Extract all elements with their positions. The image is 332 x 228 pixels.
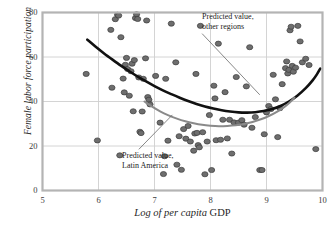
- y-tick-label: 60: [16, 52, 38, 62]
- data-point: [173, 60, 179, 65]
- data-point: [168, 21, 174, 26]
- data-point: [200, 130, 206, 135]
- data-point: [261, 132, 267, 137]
- data-point: [297, 39, 303, 44]
- data-point: [174, 162, 180, 167]
- data-point: [295, 23, 301, 28]
- data-point: [220, 117, 226, 122]
- data-point: [212, 96, 218, 101]
- data-point: [247, 45, 253, 50]
- data-point: [178, 167, 184, 172]
- data-point: [211, 83, 217, 88]
- data-point: [138, 131, 144, 136]
- data-point: [116, 13, 122, 18]
- data-point: [303, 56, 309, 61]
- data-point: [157, 120, 163, 125]
- data-point: [191, 148, 197, 153]
- x-tick-label: 7: [145, 195, 165, 205]
- data-point: [160, 171, 166, 176]
- annotation-predicted-latin-america: Predicted value,Latin America: [122, 151, 174, 170]
- data-point: [306, 62, 312, 67]
- data-point: [206, 113, 212, 118]
- data-point: [233, 74, 239, 79]
- annotation-line: Predicted value,: [202, 12, 254, 22]
- data-point: [222, 90, 228, 95]
- data-point: [123, 55, 129, 60]
- data-point: [249, 125, 255, 130]
- data-point: [146, 97, 152, 102]
- data-point: [131, 58, 137, 63]
- data-point: [293, 65, 299, 70]
- x-axis-label-italic: Log of per capita: [134, 207, 207, 218]
- data-point: [118, 35, 124, 40]
- x-tick-label: 9: [257, 195, 277, 205]
- data-point: [187, 139, 193, 144]
- x-tick-label: 8: [201, 195, 221, 205]
- chart-figure: Female labor force participation Log of …: [0, 0, 332, 228]
- data-point: [284, 59, 290, 64]
- data-point: [279, 82, 285, 87]
- x-axis-label-roman: GDP: [210, 207, 231, 218]
- data-point: [204, 139, 210, 144]
- data-point: [193, 71, 199, 76]
- data-point: [194, 130, 200, 135]
- data-point: [126, 93, 132, 98]
- data-point: [185, 123, 191, 128]
- data-point: [209, 167, 215, 172]
- y-tick-label: 80: [16, 7, 38, 17]
- data-point: [252, 115, 258, 120]
- data-point: [163, 76, 169, 81]
- annotation-predicted-other-regions: Predicted value,other regions: [202, 12, 254, 31]
- x-tick-label: 6: [89, 195, 109, 205]
- annotation-line: Predicted value,: [122, 151, 174, 161]
- data-point: [108, 27, 114, 32]
- data-point: [272, 97, 278, 102]
- data-point: [270, 72, 276, 77]
- data-point: [215, 41, 221, 46]
- data-point: [176, 134, 182, 139]
- x-tick-label: 10: [313, 195, 332, 205]
- data-point: [153, 73, 159, 78]
- data-point: [229, 151, 235, 156]
- x-axis-label: Log of per capita GDP: [42, 207, 323, 218]
- data-point: [196, 145, 202, 150]
- data-point: [243, 84, 249, 89]
- data-point: [313, 147, 319, 152]
- data-point: [135, 16, 141, 21]
- y-axis-label: Female labor force participation: [23, 0, 33, 156]
- data-point: [165, 138, 171, 143]
- x-tick-label: 5: [33, 195, 53, 205]
- data-point: [275, 135, 281, 140]
- data-point: [142, 56, 148, 61]
- data-point: [139, 109, 145, 114]
- data-point: [202, 172, 208, 177]
- data-point: [217, 137, 223, 142]
- annotation-line: other regions: [202, 22, 254, 32]
- data-point: [259, 167, 265, 172]
- data-point: [144, 18, 150, 23]
- data-point: [109, 85, 115, 90]
- annotation-line: Latin America: [122, 161, 174, 171]
- y-tick-label: 40: [16, 96, 38, 106]
- data-point: [83, 71, 89, 76]
- y-tick-label: 0: [16, 185, 38, 195]
- data-point: [288, 24, 294, 29]
- y-tick-label: 20: [16, 141, 38, 151]
- data-point: [120, 76, 126, 81]
- data-point: [130, 109, 136, 114]
- data-point: [94, 138, 100, 143]
- data-point: [224, 136, 230, 141]
